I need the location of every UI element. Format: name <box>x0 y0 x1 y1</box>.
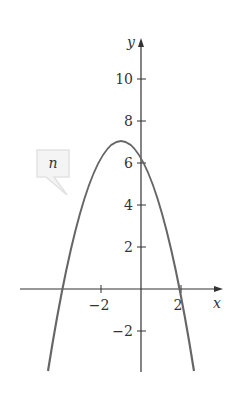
x-axis-arrow-icon <box>214 286 223 292</box>
y-tick-label: 8 <box>124 113 133 129</box>
y-tick-label: 4 <box>124 197 133 213</box>
x-axis-label: x <box>213 295 221 311</box>
y-tick-label: 6 <box>124 155 133 171</box>
y-tick-label: 10 <box>115 71 133 87</box>
x-tick-label: −2 <box>89 297 110 313</box>
callout-label: n <box>48 155 57 171</box>
y-axis-label: y <box>126 34 136 50</box>
chart-canvas: −2 2 10 8 6 4 2 −2 x y n <box>0 0 241 402</box>
y-axis-arrow-icon <box>138 38 144 47</box>
function-callout: n <box>37 150 69 195</box>
y-tick-label: 2 <box>124 239 133 255</box>
y-tick-label: −2 <box>112 323 133 339</box>
